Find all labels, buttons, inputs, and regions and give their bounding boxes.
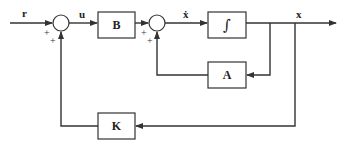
sum1-plus-bottom: + (50, 35, 56, 46)
block-diagram: r + + u B + + ẋ ∫ x A K (0, 0, 344, 147)
block-B-label: B (112, 18, 120, 32)
summing-junction-2 (149, 15, 165, 31)
signal-xdot-label: ẋ (183, 8, 189, 20)
block-A-label: A (223, 68, 232, 82)
integral-icon: ∫ (223, 16, 231, 34)
k-to-sum1-wire (61, 32, 98, 126)
a-to-sum2-wire (157, 32, 208, 75)
signal-r-label: r (22, 7, 27, 19)
signal-u-label: u (79, 8, 85, 20)
signal-x-label: x (296, 8, 302, 20)
summing-junction-1 (53, 15, 69, 31)
sum2-plus-bottom: + (147, 35, 153, 46)
block-K-label: K (112, 119, 122, 133)
a-feedback-wire (247, 23, 270, 75)
